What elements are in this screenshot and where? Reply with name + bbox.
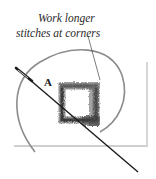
- embroidery-diagram: Work longer stitches at corners A: [0, 0, 156, 179]
- fabric-panel: [14, 62, 148, 146]
- point-label-a: A: [44, 77, 52, 88]
- leader-line: [88, 36, 100, 80]
- annotation-line-2: stitches at corners: [16, 28, 100, 40]
- stitched-square-outline: [60, 82, 100, 126]
- embroidery-hoop-arc: [17, 50, 125, 152]
- annotation-line-1: Work longer: [38, 13, 95, 25]
